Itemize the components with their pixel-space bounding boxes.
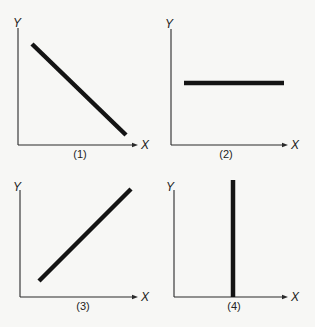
panel-3: Y X (3): [13, 180, 150, 312]
relationship-line-negative: [32, 44, 126, 135]
x-axis-arrowhead-icon: [282, 143, 288, 147]
panel-2: Y X (2): [165, 17, 300, 160]
relationship-line-positive: [39, 189, 131, 281]
y-axis-label: Y: [165, 17, 174, 31]
y-axis-label: Y: [166, 180, 175, 194]
panel-caption: (2): [219, 148, 232, 160]
x-axis-label: X: [140, 290, 150, 304]
x-axis-label: X: [290, 138, 300, 152]
x-axis-arrowhead-icon: [282, 295, 288, 299]
panel-4: Y X (4): [166, 180, 300, 312]
panel-caption: (3): [76, 300, 89, 312]
figure-four-panel-xy-relationships: Y X (1) Y X (2) Y X (3): [0, 0, 315, 327]
panel-1: Y X (1): [13, 16, 150, 160]
x-axis-arrowhead-icon: [132, 295, 138, 299]
x-axis-label: X: [290, 290, 300, 304]
x-axis-label: X: [140, 138, 150, 152]
diagram-canvas: Y X (1) Y X (2) Y X (3): [0, 0, 315, 327]
x-axis-arrowhead-icon: [132, 143, 138, 147]
y-axis-label: Y: [13, 180, 22, 194]
panel-caption: (4): [227, 300, 240, 312]
y-axis-label: Y: [13, 16, 22, 30]
panel-caption: (1): [73, 148, 86, 160]
